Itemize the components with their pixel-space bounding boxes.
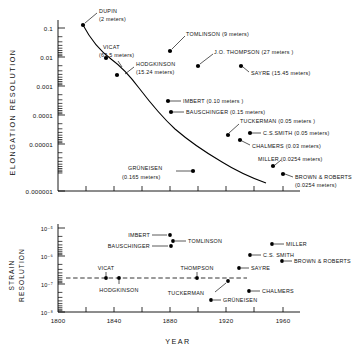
strain-point-thompson [195,276,199,280]
y-tick-label-0.1: 0.1 [44,25,54,32]
elongation-x-ticks [86,186,283,191]
label-cs-smith: C.S.SMITH (0.05 meters) [263,130,330,136]
strain-label-bauschinger: BAUSCHINGER [108,243,150,249]
data-point-hodgkinson [115,73,119,77]
label-miller: MILLER (0.0254 meters) [258,156,323,162]
elongation-y-axis-title: ELONGATION RESOLUTION [8,49,17,176]
strain-label-thompson: THOMPSON [180,265,213,271]
x-tick-label-1920: 1920 [219,317,234,324]
strain-label-tuckerman: TUCKERMAN [168,290,204,296]
strain-label-miller: MILLER [286,241,307,247]
strain-y-tick-label-1e-6: 10⁻⁶ [41,254,53,260]
figure-container: ELONGATION RESOLUTION 0.1 0.01 0.001 0.0… [0,0,357,355]
strain-y-axis-title-line2: RESOLUTION [18,248,25,302]
strain-point-tomlinson [171,239,175,243]
label-tomlinson: TOMLINSON (9 meters) [186,31,249,37]
label-brown-roberts-sub: (0.0254 meters) [295,182,337,188]
strain-label-tomlinson: TOMLINSON [188,238,222,244]
data-point-sayre [239,64,243,68]
data-point-dupin [81,23,85,27]
x-tick-label-1800: 1800 [51,317,66,324]
strain-y-tick-label-1e-7: 10⁻⁷ [41,282,53,288]
data-point-tuckerman [226,133,230,137]
y-tick-label-0.000001: 0.000001 [26,188,54,195]
strain-label-vicat: VICAT [98,265,115,271]
data-point-imbert [166,99,170,103]
strain-x-ticks [86,307,283,312]
label-dupin-sub: (2 meters) [99,16,126,22]
strain-label-brown-roberts: BROWN & ROBERTS [294,258,351,264]
strain-label-sayre: SAYRE [251,265,270,271]
elongation-leader-lines [85,13,293,177]
strain-point-brown-roberts [280,259,284,263]
y-tick-label-0.01: 0.01 [40,54,53,61]
strain-point-bauschinger [169,244,173,248]
y-tick-label-0.0001: 0.0001 [33,112,53,119]
strain-point-tuckerman [226,279,230,283]
x-axis-title: YEAR [165,337,191,346]
strain-y-tick-label-1e-8: 10⁻⁸ [41,310,54,316]
strain-point-cs-smith [248,253,252,257]
strain-point-sayre [237,266,241,270]
label-chalmers: CHALMERS (0.03 meters) [252,143,321,149]
x-tick-label-1840: 1840 [107,317,122,324]
data-point-miller [271,164,275,168]
data-point-gruneisen [191,169,195,173]
strain-point-imbert [168,233,172,237]
strain-y-minor-ticks [58,236,62,310]
x-tick-label-1880: 1880 [163,317,178,324]
strain-point-gruneisen [209,298,213,302]
y-tick-label-0.001: 0.001 [37,83,54,90]
label-bauschinger: BAUSCHINGER (0.15 meters) [186,109,265,115]
strain-y-tick-label-1e-5: 10⁻⁵ [41,226,53,232]
label-hodgkinson-sub: (15.24 meters) [136,69,175,75]
data-point-jo-thompson [196,64,200,68]
strain-point-chalmers [247,289,251,293]
x-tick-label-1960: 1960 [276,317,291,324]
label-dupin: DUPIN [99,8,117,14]
label-imbert: IMBERT (0.10 meters ) [183,98,243,104]
label-tuckerman: TUCKERMAN (0.05 meters ) [240,118,315,124]
strain-label-gruneisen: GRÜNEISEN [223,297,257,303]
y-tick-label-0.00001: 0.00001 [29,141,53,148]
data-point-cs-smith [248,131,252,135]
strain-label-chalmers: CHALMERS [262,288,294,294]
data-point-bauschinger [169,110,173,114]
chart-svg: ELONGATION RESOLUTION 0.1 0.01 0.001 0.0… [0,0,357,355]
label-sayre: SAYRE (15.45 meters) [251,70,310,76]
strain-label-cs-smith: C.S. SMITH [263,252,294,258]
label-brown-roberts: BROWN & ROBERTS [295,174,352,180]
strain-point-miller [270,242,274,246]
data-point-brown-roberts [281,172,285,176]
strain-label-imbert: IMBERT [128,232,150,238]
elongation-chart: ELONGATION RESOLUTION 0.1 0.01 0.001 0.0… [8,8,352,195]
label-vicat: VICAT [103,44,120,50]
label-vicat-sub: (63.5 meters) [99,52,134,58]
strain-y-major-ticks [58,228,65,312]
data-point-tomlinson [168,49,172,53]
strain-chart: STRAIN RESOLUTION 10⁻⁵ 10⁻⁶ 10⁻⁷ 10⁻⁸ [8,224,351,346]
label-gruneisen-sub: (0.165 meters) [122,174,161,180]
strain-point-vicat [104,276,108,280]
strain-label-hodgkinson: HODGKINSON [99,287,138,293]
data-point-chalmers [238,138,242,142]
label-gruneisen: GRÜNEISEN [128,165,162,171]
label-hodgkinson: HODGKINSON [136,61,175,67]
label-jo-thompson: J.O. THOMPSON (27 meters ) [214,49,293,55]
strain-point-hodgkinson [117,276,121,280]
strain-y-axis-title-line1: STRAIN [8,260,15,291]
